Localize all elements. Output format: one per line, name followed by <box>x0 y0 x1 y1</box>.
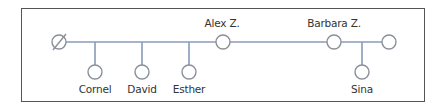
label-david: David <box>127 83 156 95</box>
node-alex <box>216 35 230 49</box>
node-barbara <box>327 35 341 49</box>
label-sina: Sina <box>351 83 373 95</box>
label-alex: Alex Z. <box>204 17 239 29</box>
node-david <box>135 65 149 79</box>
label-barbara: Barbara Z. <box>307 17 361 29</box>
node-cornel <box>88 65 102 79</box>
label-esther: Esther <box>173 83 205 95</box>
label-cornel: Cornel <box>79 83 112 95</box>
node-esther <box>182 65 196 79</box>
node-sina <box>355 65 369 79</box>
node-partner <box>382 35 396 49</box>
